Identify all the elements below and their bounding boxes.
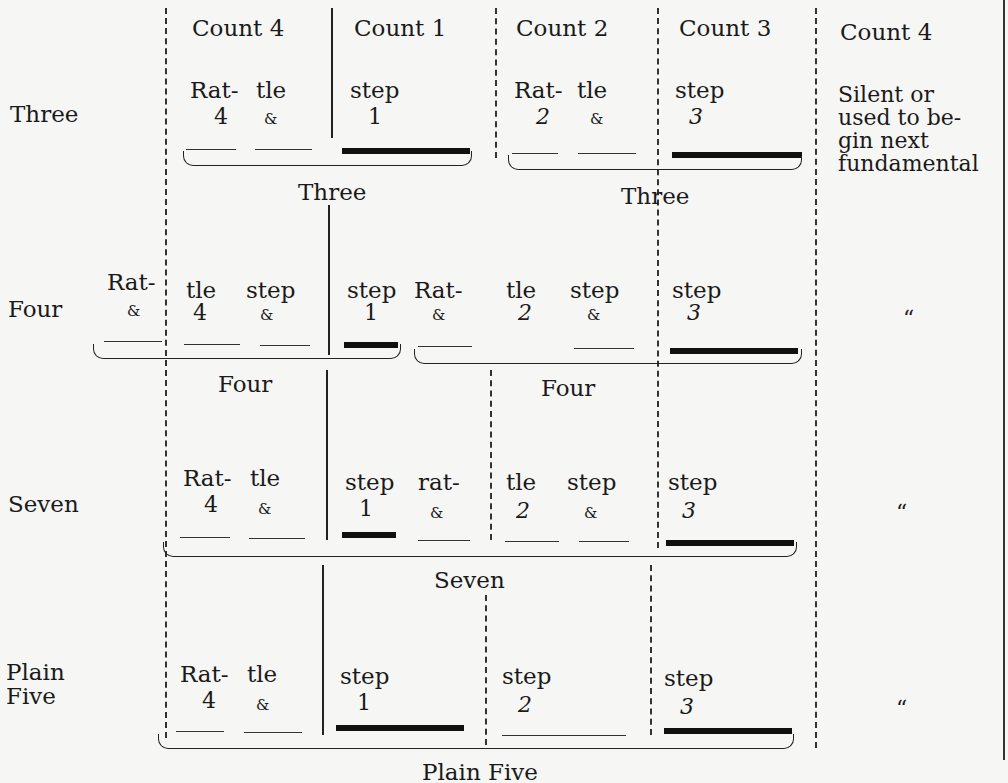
beat-underline: [512, 153, 558, 154]
count: &: [590, 108, 603, 130]
brace: [158, 734, 794, 749]
beat-underline-accent: [336, 725, 464, 731]
header-count-4: Count 4: [192, 16, 284, 40]
beat-underline: [249, 538, 305, 539]
row-label-four: Four: [8, 297, 62, 321]
beat-underline: [578, 153, 636, 154]
count: &: [430, 502, 443, 524]
divider-count1-left-c: [326, 370, 328, 540]
header-count-3: Count 3: [679, 16, 771, 40]
count: 3: [680, 696, 694, 718]
count: 4: [214, 106, 228, 128]
brace-label: Three: [621, 184, 689, 208]
count: &: [260, 304, 273, 326]
syllable: step: [345, 470, 394, 494]
divider-count3-left-d: [650, 565, 652, 735]
beat-underline: [180, 537, 230, 538]
count: &: [584, 502, 597, 524]
syllable: Rat-: [183, 466, 232, 490]
syllable: step: [347, 278, 396, 302]
syllable: step: [246, 278, 295, 302]
beat-underline: [244, 732, 302, 733]
count: 2: [536, 106, 550, 128]
brace-label: Plain Five: [422, 760, 538, 783]
divider-count4-left: [165, 8, 167, 738]
count: 2: [516, 500, 530, 522]
syllable: Rat-: [190, 78, 239, 102]
syllable: tle: [506, 470, 536, 494]
row-label-three: Three: [10, 102, 78, 126]
count: 1: [364, 302, 378, 324]
beat-underline: [186, 149, 236, 150]
count: 4: [202, 690, 216, 712]
note-line: fundamental: [838, 152, 979, 176]
syllable: step: [664, 666, 713, 690]
count: &: [127, 300, 140, 322]
beat-underline: [176, 731, 224, 732]
brace-label: Three: [298, 180, 366, 204]
beat-underline: [104, 341, 162, 342]
note-line: Silent or: [838, 83, 934, 107]
count: 3: [682, 500, 696, 522]
count: 3: [687, 302, 701, 324]
divider-count1-left-d: [322, 565, 324, 735]
syllable: tle: [506, 278, 536, 302]
count: 1: [368, 106, 382, 128]
brace-label: Seven: [434, 568, 505, 592]
brace: [508, 155, 802, 170]
note-line: gin next: [838, 129, 929, 153]
count: &: [256, 694, 269, 716]
count: 3: [689, 106, 703, 128]
syllable: step: [668, 470, 717, 494]
syllable: step: [502, 664, 551, 688]
syllable: step: [570, 278, 619, 302]
count: 2: [518, 302, 532, 324]
count: &: [432, 304, 445, 326]
divider-count2-left-d: [485, 595, 487, 745]
ditto-mark: “: [903, 306, 914, 331]
divider-count2-left-c: [490, 370, 492, 540]
syllable: tle: [577, 78, 607, 102]
syllable: tle: [250, 466, 280, 490]
brace: [183, 151, 472, 166]
divider-count1-left-b: [328, 205, 330, 355]
brace-label: Four: [218, 372, 272, 396]
count: 4: [204, 494, 218, 516]
page-edge: [1003, 0, 1005, 760]
syllable: step: [567, 470, 616, 494]
beat-underline: [418, 346, 472, 347]
brace: [414, 349, 802, 364]
header-count-1: Count 1: [354, 16, 446, 40]
syllable: tle: [256, 78, 286, 102]
count: &: [587, 304, 600, 326]
count: 4: [193, 302, 207, 324]
syllable: step: [675, 78, 724, 102]
count: 1: [357, 692, 371, 714]
syllable: Rat-: [107, 270, 156, 294]
divider-count3-left: [657, 8, 659, 548]
row-label-seven: Seven: [8, 492, 79, 516]
divider-count1-left-a: [331, 8, 333, 138]
divider-count4b-left: [815, 8, 817, 748]
count: &: [264, 108, 277, 130]
beat-underline: [255, 149, 312, 150]
row-label-plain-five: Plain: [6, 660, 65, 684]
syllable: Rat-: [514, 78, 563, 102]
header-count-4-next: Count 4: [840, 20, 932, 44]
syllable: rat-: [418, 470, 460, 494]
syllable: step: [340, 664, 389, 688]
beat-underline: [418, 540, 470, 541]
count: 2: [518, 694, 532, 716]
brace-label: Four: [541, 376, 595, 400]
count: 1: [359, 498, 373, 520]
syllable: step: [672, 278, 721, 302]
syllable: step: [350, 78, 399, 102]
brace: [163, 542, 797, 557]
syllable: tle: [247, 662, 277, 686]
syllable: tle: [186, 278, 216, 302]
divider-count2-left-a: [495, 8, 497, 158]
header-count-2: Count 2: [516, 16, 608, 40]
ditto-mark: “: [896, 696, 907, 721]
beat-underline-accent: [342, 532, 396, 538]
count: &: [258, 498, 271, 520]
